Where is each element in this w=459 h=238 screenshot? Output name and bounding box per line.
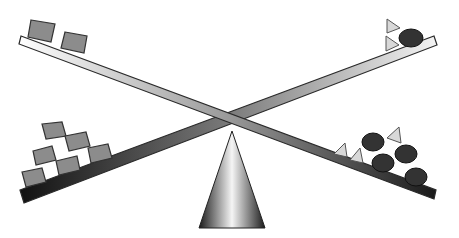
diagram-canvas [0,0,459,238]
seesaw-diagram: Two crossed seesaw beams balanced on a c… [0,0,459,238]
fulcrum-cone [199,131,265,228]
